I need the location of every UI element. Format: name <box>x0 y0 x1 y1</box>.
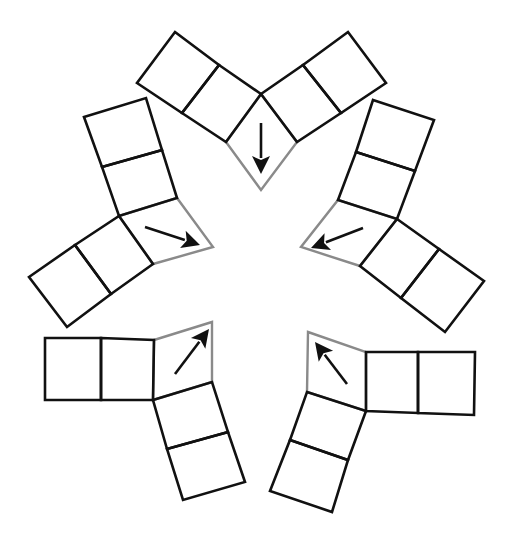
unit-lower-right <box>270 332 475 512</box>
arrow-up-left-icon <box>315 342 347 384</box>
square <box>102 150 177 216</box>
square <box>84 98 162 167</box>
square <box>153 382 228 449</box>
arrow-down-icon <box>252 123 270 174</box>
radial-square-diagram <box>0 0 510 541</box>
square <box>101 338 154 400</box>
square <box>29 245 111 327</box>
square <box>45 338 101 400</box>
unit-top <box>137 32 386 190</box>
square <box>401 249 484 332</box>
square <box>75 216 153 294</box>
arrow-down-right-icon <box>145 227 200 248</box>
square <box>366 352 418 413</box>
square <box>167 432 245 500</box>
square <box>338 152 415 219</box>
arrow-rhombus <box>119 198 213 264</box>
square <box>418 352 475 415</box>
unit-upper-right <box>301 100 484 332</box>
arrow-down-left-icon <box>311 228 363 250</box>
square <box>270 440 348 512</box>
arrow-up-right-icon <box>175 329 209 374</box>
square <box>261 65 341 142</box>
unit-upper-left <box>29 98 213 327</box>
square <box>137 32 219 113</box>
square <box>290 392 366 460</box>
square <box>356 100 434 171</box>
square <box>360 219 439 298</box>
square <box>182 65 261 142</box>
unit-lower-left <box>45 322 245 500</box>
